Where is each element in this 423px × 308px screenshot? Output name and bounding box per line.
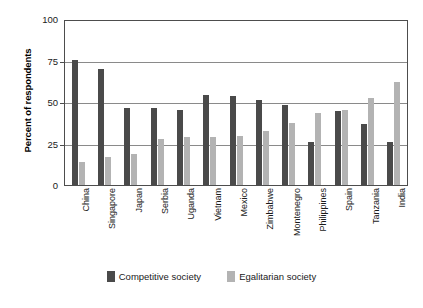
bar bbox=[315, 113, 321, 185]
x-tick-label: Vietnam bbox=[214, 188, 223, 221]
legend-item: Competitive society bbox=[107, 271, 201, 282]
x-tick-label: Philippines bbox=[319, 188, 328, 232]
x-tick-label: Serbia bbox=[161, 188, 170, 214]
bar bbox=[289, 123, 295, 185]
x-tick-label: China bbox=[82, 188, 91, 212]
bar bbox=[387, 142, 393, 185]
bar bbox=[237, 136, 243, 185]
bar bbox=[203, 95, 209, 185]
bar bbox=[230, 96, 236, 185]
bar bbox=[368, 98, 374, 185]
legend-label: Competitive society bbox=[119, 272, 201, 282]
x-tick-label: Uganda bbox=[187, 188, 196, 220]
bar-group bbox=[197, 21, 223, 185]
bar-group bbox=[249, 21, 275, 185]
x-label-cell: India bbox=[381, 188, 407, 258]
x-label-cell: Japan bbox=[118, 188, 144, 258]
bar bbox=[151, 108, 157, 185]
x-label-cell: Uganda bbox=[170, 188, 196, 258]
bar-group bbox=[223, 21, 249, 185]
bar-group bbox=[381, 21, 407, 185]
x-label-cell: Montenegro bbox=[276, 188, 302, 258]
bar bbox=[131, 154, 137, 185]
x-label-cell: Zimbabwe bbox=[249, 188, 275, 258]
bar-group bbox=[302, 21, 328, 185]
bar-group bbox=[65, 21, 91, 185]
legend-label: Egalitarian society bbox=[239, 272, 316, 282]
bar bbox=[342, 110, 348, 185]
bar bbox=[177, 110, 183, 185]
bar bbox=[98, 69, 104, 185]
bar bbox=[256, 100, 262, 185]
bar bbox=[335, 111, 341, 185]
x-label-cell: Vietnam bbox=[197, 188, 223, 258]
bar-group bbox=[276, 21, 302, 185]
bars-layer bbox=[65, 21, 407, 185]
competitive-swatch bbox=[107, 271, 115, 282]
x-label-cell: Tanzania bbox=[354, 188, 380, 258]
bar-group bbox=[118, 21, 144, 185]
bar bbox=[184, 137, 190, 185]
x-axis-labels: ChinaSingaporeJapanSerbiaUgandaVietnamMe… bbox=[65, 188, 407, 258]
x-tick-label: Montenegro bbox=[293, 188, 302, 236]
egalitarian-swatch bbox=[227, 271, 235, 282]
chart-legend: Competitive societyEgalitarian society bbox=[0, 271, 423, 282]
bar bbox=[263, 131, 269, 185]
y-tick-label: 50 bbox=[18, 98, 58, 108]
bar bbox=[282, 105, 288, 185]
x-label-cell: Serbia bbox=[144, 188, 170, 258]
x-label-cell: China bbox=[65, 188, 91, 258]
bar-group bbox=[328, 21, 354, 185]
bar bbox=[105, 157, 111, 185]
x-label-cell: Mexico bbox=[223, 188, 249, 258]
legend-item: Egalitarian society bbox=[227, 271, 316, 282]
x-label-cell: Philippines bbox=[302, 188, 328, 258]
y-tick-label: 0 bbox=[18, 181, 58, 191]
y-tick-label: 75 bbox=[18, 57, 58, 67]
bar bbox=[158, 139, 164, 185]
x-tick-label: Tanzania bbox=[372, 188, 381, 224]
bar-group bbox=[170, 21, 196, 185]
x-label-cell: Spain bbox=[328, 188, 354, 258]
y-tick-label: 25 bbox=[18, 140, 58, 150]
y-tick-label: 100 bbox=[18, 15, 58, 25]
bar bbox=[124, 108, 130, 185]
bar bbox=[394, 82, 400, 185]
x-tick-label: Spain bbox=[345, 188, 354, 211]
bar bbox=[361, 124, 367, 185]
x-tick-label: India bbox=[398, 188, 407, 208]
x-tick-label: Zimbabwe bbox=[266, 188, 275, 230]
bar-group bbox=[91, 21, 117, 185]
x-tick-label: Japan bbox=[135, 188, 144, 213]
bar bbox=[79, 162, 85, 185]
bar-group bbox=[144, 21, 170, 185]
x-tick-label: Singapore bbox=[108, 188, 117, 229]
bar bbox=[308, 142, 314, 185]
bar-group bbox=[354, 21, 380, 185]
bar bbox=[72, 60, 78, 185]
bar-chart: Percent of respondents 0255075100 ChinaS… bbox=[0, 0, 423, 308]
bar bbox=[210, 137, 216, 185]
x-label-cell: Singapore bbox=[91, 188, 117, 258]
x-tick-label: Mexico bbox=[240, 188, 249, 217]
